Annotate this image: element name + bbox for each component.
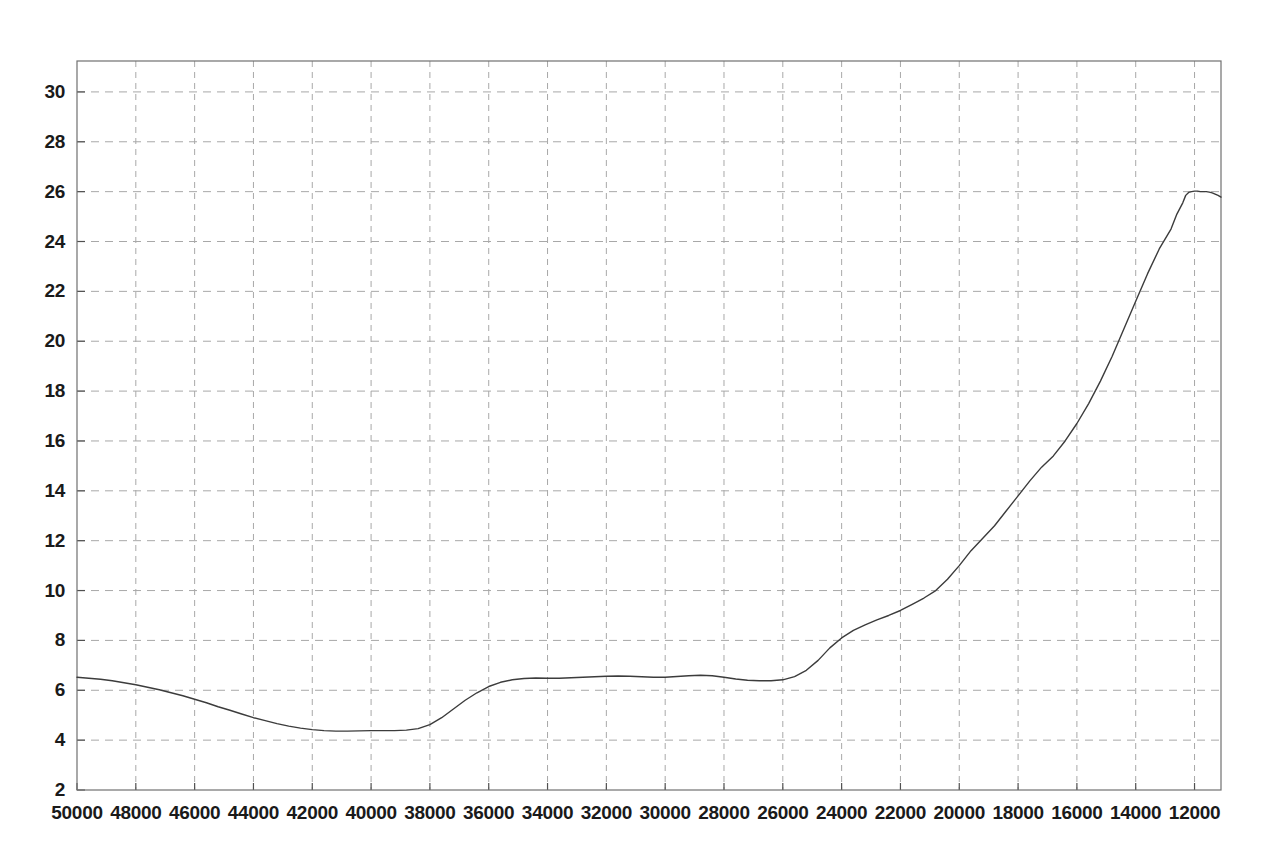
y-axis-ticks [77,92,85,790]
x-tick-label: 38000 [404,802,455,824]
chart-container: 5000048000460004400042000400003800036000… [0,0,1274,853]
vertical-gridlines [136,61,1195,790]
y-tick-label: 28 [0,131,65,153]
y-tick-label: 30 [0,81,65,103]
data-series-line [77,191,1221,731]
x-tick-label: 50000 [51,802,102,824]
y-tick-label: 18 [0,380,65,402]
chart-plot-area [0,0,1274,853]
x-tick-label: 34000 [522,802,573,824]
x-tick-label: 24000 [816,802,867,824]
x-tick-label: 14000 [1110,802,1161,824]
y-tick-label: 10 [0,580,65,602]
y-tick-label: 8 [0,629,65,651]
y-tick-label: 4 [0,729,65,751]
y-tick-label: 24 [0,231,65,253]
y-tick-label: 2 [0,779,65,801]
x-tick-label: 26000 [757,802,808,824]
y-tick-label: 14 [0,480,65,502]
y-tick-label: 26 [0,181,65,203]
x-tick-label: 48000 [110,802,161,824]
x-tick-label: 40000 [345,802,396,824]
x-axis-ticks [77,783,1195,790]
y-tick-label: 22 [0,280,65,302]
x-tick-label: 42000 [287,802,338,824]
x-tick-label: 18000 [992,802,1043,824]
plot-border [77,61,1221,790]
x-tick-label: 36000 [463,802,514,824]
y-tick-label: 12 [0,530,65,552]
x-tick-label: 46000 [169,802,220,824]
x-tick-label: 32000 [581,802,632,824]
x-tick-label: 44000 [228,802,279,824]
y-tick-label: 16 [0,430,65,452]
x-tick-label: 20000 [934,802,985,824]
x-tick-label: 22000 [875,802,926,824]
y-tick-label: 20 [0,330,65,352]
x-tick-label: 16000 [1051,802,1102,824]
y-tick-label: 6 [0,679,65,701]
x-tick-label: 28000 [698,802,749,824]
x-tick-label: 30000 [640,802,691,824]
horizontal-gridlines [77,92,1221,740]
x-tick-label: 12000 [1169,802,1220,824]
